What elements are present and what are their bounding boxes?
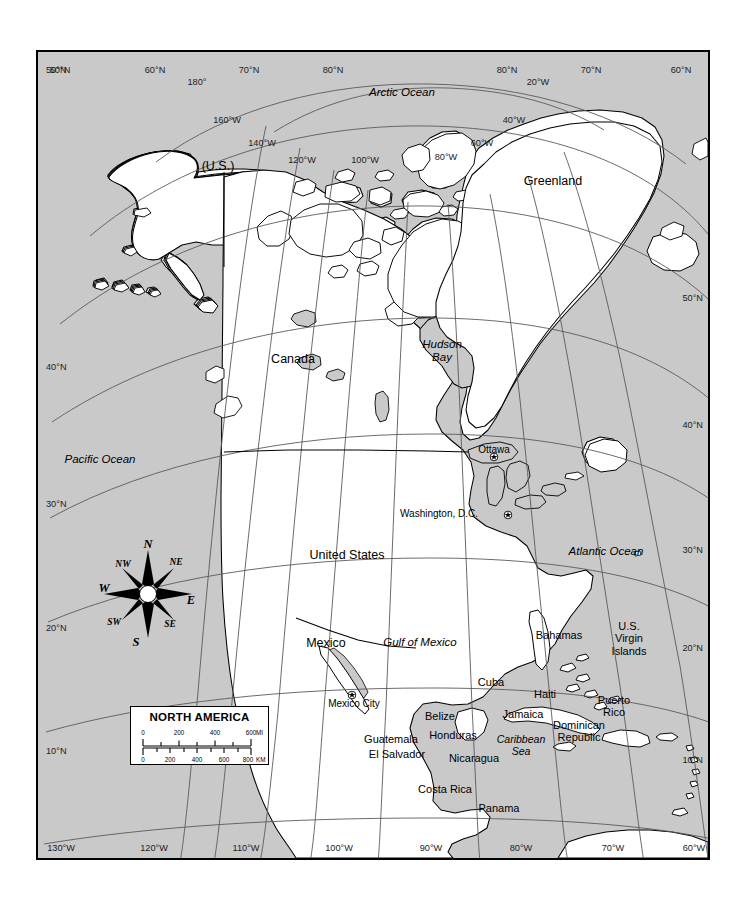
scale-km-unit: KM <box>256 756 265 763</box>
scale-km-bar <box>142 747 264 756</box>
compass-point-nw <box>122 568 143 589</box>
capital-star-icon <box>348 691 357 700</box>
capital-marker-mexico-city <box>348 686 357 695</box>
compass-label-s: S <box>133 635 140 650</box>
scale-mi-tick-1: 200 <box>174 729 185 736</box>
scale-km-tick-1: 200 <box>165 756 176 763</box>
scale-mi-tick-2: 400 <box>210 729 221 736</box>
scale-km-tick-2: 400 <box>192 756 203 763</box>
capital-marker-washington-d-c <box>504 506 513 515</box>
compass-label-ne: NE <box>169 557 182 567</box>
scale-km-tick-4: 800 <box>243 756 254 763</box>
compass-label-w: W <box>98 581 109 596</box>
compass-hub <box>140 586 157 603</box>
north-america-map-figure: CanadaUnited StatesMexicoGreenland(U.S.)… <box>0 0 743 903</box>
scale-mi-unit: MI <box>256 729 263 736</box>
capital-star-icon <box>504 511 513 520</box>
compass-point-sw <box>122 599 143 620</box>
compass-star-icon <box>96 538 200 650</box>
scale-legend-box: NORTH AMERICA 0 200 400 600 MI 0 200 400 <box>130 706 269 765</box>
scale-km-tick-3: 600 <box>219 756 230 763</box>
bathurst-isl <box>369 187 391 205</box>
compass-point-s <box>142 600 154 638</box>
compass-point-ne <box>153 568 174 589</box>
compass-label-n: N <box>143 537 152 552</box>
scale-mi-tick-0: 0 <box>141 729 145 736</box>
compass-label-se: SE <box>164 619 176 629</box>
scale-km-numbers: 0 200 400 600 800 KM <box>142 756 264 765</box>
capital-marker-ottawa <box>490 448 499 457</box>
bermuda-dot <box>634 551 641 556</box>
scale-km-tick-0: 0 <box>141 756 145 763</box>
compass-label-sw: SW <box>107 617 121 627</box>
compass-point-w <box>104 588 142 600</box>
compass-rose: N NE E SE S SW W NW <box>96 538 200 650</box>
compass-point-n <box>142 550 154 588</box>
compass-label-nw: NW <box>115 559 130 569</box>
devon-isl <box>403 191 444 217</box>
capital-star-icon <box>490 453 499 462</box>
scale-miles-numbers: 0 200 400 600 MI <box>142 729 264 738</box>
legend-title: NORTH AMERICA <box>131 711 268 723</box>
scale-mi-tick-3: 600 <box>246 729 257 736</box>
compass-point-se <box>153 599 174 620</box>
compass-label-e: E <box>187 593 195 608</box>
